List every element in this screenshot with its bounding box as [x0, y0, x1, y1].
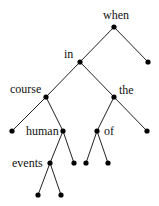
tree-node-when	[111, 24, 116, 29]
tree-edge	[46, 62, 80, 97]
node-label-of: of	[104, 124, 114, 138]
node-label-course: course	[10, 82, 41, 96]
tree-labels: when in course the human of events	[10, 8, 134, 170]
node-label-the: the	[119, 83, 134, 97]
tree-leaf-node	[83, 160, 88, 165]
tree-edge	[86, 131, 97, 163]
tree-leaf-node	[144, 128, 149, 133]
tree-edge	[50, 163, 61, 195]
node-label-events: events	[12, 156, 43, 170]
tree-edge	[63, 131, 74, 163]
tree-leaf-node	[35, 192, 40, 197]
tree-node-of	[94, 128, 99, 133]
tree-leaf-node	[145, 59, 150, 64]
tree-leaf-node	[71, 160, 76, 165]
tree-node-course	[43, 94, 48, 99]
tree-leaf-node	[58, 192, 63, 197]
tree-node-the	[111, 94, 116, 99]
tree-leaf-node	[105, 160, 110, 165]
tree-nodes	[9, 24, 150, 197]
node-label-in: in	[64, 47, 73, 61]
node-label-human: human	[26, 124, 59, 138]
tree-edge	[80, 62, 114, 97]
tree-diagram: when in course the human of events	[0, 0, 159, 206]
node-label-when: when	[103, 8, 129, 22]
tree-node-events	[47, 160, 52, 165]
tree-node-human	[60, 128, 65, 133]
tree-svg: when in course the human of events	[0, 0, 159, 206]
tree-edge	[114, 27, 148, 62]
tree-node-in	[77, 59, 82, 64]
tree-edge	[114, 97, 147, 131]
tree-leaf-node	[9, 128, 14, 133]
tree-edge	[80, 27, 114, 62]
